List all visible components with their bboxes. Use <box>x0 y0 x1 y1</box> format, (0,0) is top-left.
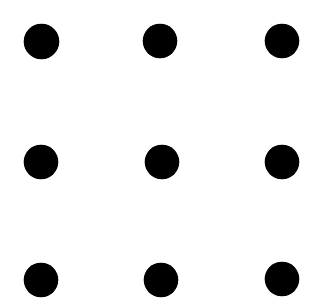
dot-middle-left <box>24 145 58 179</box>
dot-bottom-right <box>265 262 299 296</box>
dot-bottom-center <box>144 263 178 297</box>
dot-middle-right <box>265 145 299 179</box>
dot-middle-center <box>145 145 179 179</box>
dot-top-right <box>265 24 299 58</box>
dot-bottom-left <box>24 263 58 297</box>
dot-top-center <box>143 24 177 58</box>
nine-dot-canvas <box>0 0 317 308</box>
dot-top-left <box>24 24 59 59</box>
